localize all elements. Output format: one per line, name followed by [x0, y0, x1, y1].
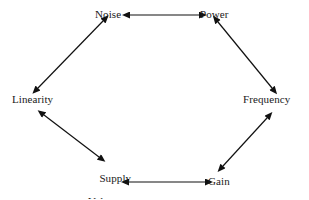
tradeoff-hexagon-diagram: Noise Power Frequency Gain Supply Voltag…	[0, 0, 309, 199]
edge-power-frequency	[218, 22, 272, 88]
node-label-gain: Gain	[208, 176, 230, 188]
node-label-power: Power	[200, 9, 229, 21]
node-label-noise: Noise	[95, 9, 121, 21]
node-label-supply-voltage: Supply Voltage	[88, 161, 131, 199]
edge-supply-linearity	[44, 115, 99, 157]
node-label-supply-voltage-line2: Voltage	[88, 196, 131, 200]
edge-frequency-gain	[223, 118, 267, 166]
node-label-frequency: Frequency	[243, 94, 290, 106]
edge-linearity-noise	[38, 21, 103, 88]
node-label-supply-voltage-line1: Supply	[99, 172, 131, 184]
node-label-linearity: Linearity	[12, 94, 53, 106]
